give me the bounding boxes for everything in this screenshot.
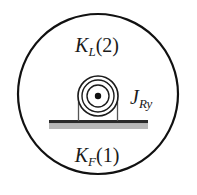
label-bottom-paren: (1) <box>96 144 119 167</box>
diagram-canvas: KL(2) JRy KF(1) <box>0 0 197 195</box>
ground-base-dark-band <box>49 120 148 123</box>
rotor-roller <box>78 76 118 116</box>
ground-base-gray-band <box>49 123 148 129</box>
label-bottom-spring-KF: KF(1) <box>74 144 120 169</box>
label-top-subscript: L <box>87 44 95 59</box>
roller-hub-dot <box>95 93 101 99</box>
mechanical-system-diagram: KL(2) JRy KF(1) <box>0 0 197 195</box>
label-right-subscript: Ry <box>138 96 153 111</box>
ground-base <box>49 120 148 129</box>
label-top-spring-KL: KL(2) <box>74 34 119 59</box>
label-top-paren: (2) <box>96 34 119 57</box>
